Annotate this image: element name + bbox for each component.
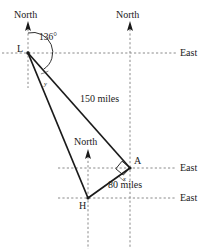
label-point-L: L <box>17 44 23 54</box>
label-angle-x: x <box>123 176 126 183</box>
diagram-canvas <box>0 0 203 249</box>
label-length-150-miles: 150 miles <box>80 94 119 104</box>
label-north-top-right: North <box>116 10 139 20</box>
bearing-diagram-figure: North North North East East East 136° L … <box>0 0 203 249</box>
label-angle-y: y <box>44 81 47 88</box>
segment-L-to-A <box>28 53 130 168</box>
vertex-dot-L <box>26 51 30 55</box>
triangle-LAH <box>28 53 130 198</box>
label-angle-136: 136° <box>39 33 57 43</box>
segment-L-to-H <box>28 53 88 198</box>
label-north-inner: North <box>74 137 97 147</box>
label-point-H: H <box>79 201 86 211</box>
vertex-dot-A <box>128 166 131 169</box>
vertex-dot-H <box>86 196 89 199</box>
label-east-top-right: East <box>180 48 197 58</box>
label-point-A: A <box>134 156 141 166</box>
label-east-bottom-right: East <box>180 193 197 203</box>
label-north-top-left: North <box>14 10 37 20</box>
label-east-mid-right: East <box>180 163 197 173</box>
